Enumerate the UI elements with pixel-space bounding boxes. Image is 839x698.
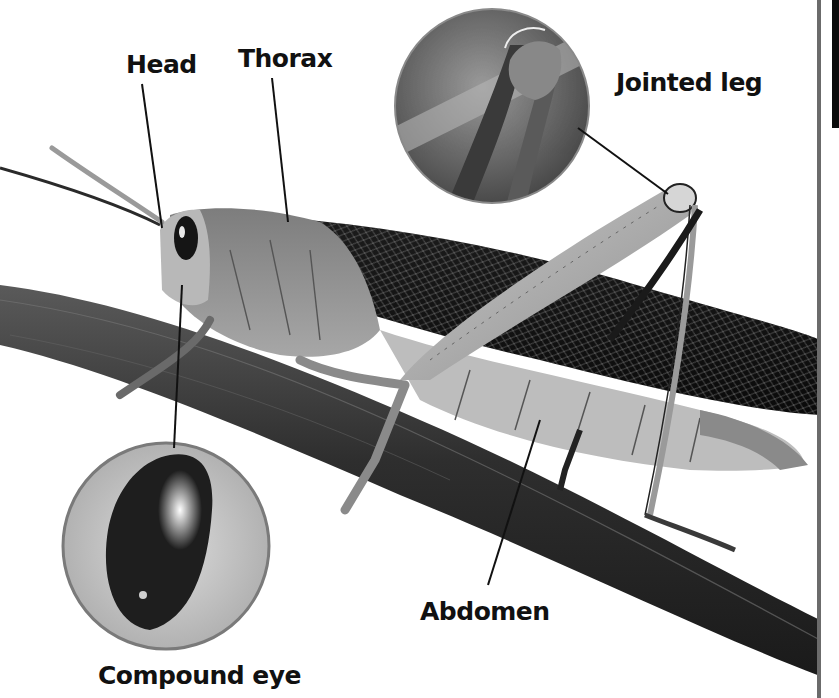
thorax-leader-line <box>272 78 288 222</box>
label-compound-eye: Compound eye <box>98 663 301 688</box>
label-head: Head <box>126 52 197 77</box>
page-edge-divider <box>817 0 821 698</box>
grasshopper-diagram: Head Thorax Jointed leg Abdomen Compound… <box>0 0 839 698</box>
antennae <box>0 148 162 225</box>
grasshopper-illustration <box>0 0 839 698</box>
jointed-leg-inset <box>395 9 600 210</box>
head-leader-line <box>142 84 162 228</box>
compound-eye-inset <box>63 443 269 649</box>
label-abdomen: Abdomen <box>420 599 550 624</box>
jointed-leg-leader-line <box>578 128 668 194</box>
label-jointed-leg: Jointed leg <box>616 70 762 95</box>
compound-eye-shape <box>174 216 198 260</box>
page-edge-tab <box>832 0 839 128</box>
label-thorax: Thorax <box>238 46 332 71</box>
